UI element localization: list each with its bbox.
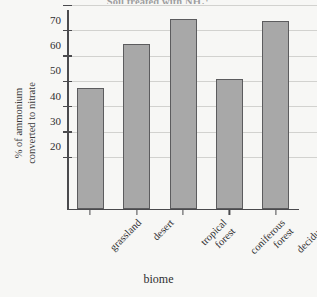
x-axis-tick xyxy=(136,210,137,215)
x-axis-category-label: tropicalforest xyxy=(198,217,237,256)
bar xyxy=(262,21,289,208)
y-axis-label: % of ammonium converted to nitrate xyxy=(8,48,42,198)
chart-title: Soil treated with NH₄⁺ xyxy=(0,0,317,4)
y-axis-tick xyxy=(63,5,72,6)
x-axis-category-label: grassland xyxy=(108,217,144,253)
x-axis-category-label: deciduousforest xyxy=(294,217,317,263)
chart-figure: Soil treated with NH₄⁺ % of ammonium con… xyxy=(0,0,317,297)
x-axis-category-label-line: grassland xyxy=(108,217,144,253)
x-axis-tick xyxy=(229,210,230,215)
y-axis-line xyxy=(67,10,69,210)
gridline xyxy=(68,5,317,6)
y-axis-tick-label: 20 xyxy=(50,140,61,152)
y-axis-tick-label: 40 xyxy=(50,90,61,102)
y-axis-tick xyxy=(63,131,72,132)
x-axis-tick xyxy=(182,210,183,215)
y-axis-label-line-2: converted to nitrate xyxy=(25,82,38,164)
y-axis-tick xyxy=(63,106,72,107)
x-axis-label: biome xyxy=(0,272,317,287)
y-axis-tick-label: 50 xyxy=(50,64,61,76)
y-axis-tick xyxy=(63,30,72,31)
x-axis-category-label: desert xyxy=(150,217,176,243)
y-axis-tick-label: 70 xyxy=(50,14,61,26)
bar xyxy=(123,44,150,209)
x-axis-tick xyxy=(90,210,91,215)
y-axis-tick xyxy=(63,55,72,56)
y-axis-tick-label: 60 xyxy=(50,39,61,51)
plot-area: 20304050607080 xyxy=(67,10,317,210)
y-axis-tick-label: 30 xyxy=(50,115,61,127)
y-axis-tick xyxy=(63,81,72,82)
bar xyxy=(216,79,243,208)
x-axis-tick xyxy=(275,210,276,215)
y-axis-label-line-1: % of ammonium xyxy=(12,82,25,164)
x-axis-category-label: coniferousforest xyxy=(248,217,296,265)
bar xyxy=(77,88,104,208)
x-axis-category-label-line: desert xyxy=(150,217,176,243)
bar xyxy=(170,19,197,209)
y-axis-tick xyxy=(63,157,72,158)
